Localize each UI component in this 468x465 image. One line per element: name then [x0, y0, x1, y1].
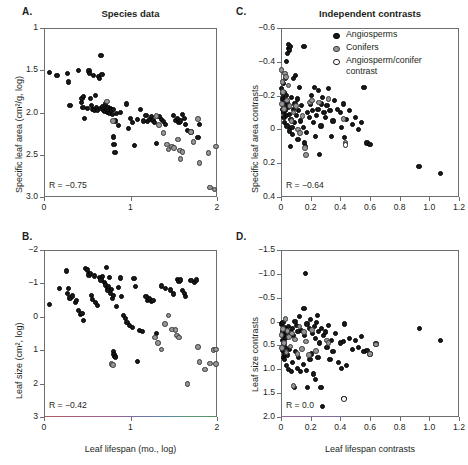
data-point-ang [111, 142, 116, 147]
data-point-ang [330, 118, 335, 123]
panel-b-letter: B. [22, 231, 32, 242]
x-tick-mark [44, 417, 45, 421]
y-tick-mark [40, 350, 44, 351]
data-point-ang [109, 287, 114, 292]
data-point-con [299, 346, 305, 352]
data-point-con [297, 130, 303, 136]
x-tick-label: 1.0 [415, 422, 443, 432]
y-tick-mark [277, 62, 281, 63]
data-point-ang [438, 171, 443, 176]
data-point-con [213, 347, 219, 353]
legend-label-mixed-contrast-line2: contrast [346, 66, 377, 76]
data-point-ang [303, 271, 308, 276]
data-point-ang [289, 125, 294, 130]
x-tick-label: 0.2 [297, 202, 325, 212]
data-point-ang [130, 120, 135, 125]
data-point-ang [194, 277, 199, 282]
data-point-con [175, 137, 181, 143]
data-point-ang [353, 338, 358, 343]
data-point-con [373, 342, 379, 348]
data-point-ang [323, 329, 328, 334]
data-point-ang [116, 123, 121, 128]
panel-d-x-axis-label: Leaf lifespan contrasts [281, 444, 459, 454]
data-point-ang [47, 302, 52, 307]
data-point-con [316, 100, 322, 106]
scan-artifact-d [282, 416, 342, 417]
y-tick-mark [40, 250, 44, 251]
data-point-ang [99, 72, 104, 77]
data-point-ang [315, 355, 320, 360]
y-tick-label: 1 [4, 22, 38, 32]
x-tick-label: 0.8 [386, 202, 414, 212]
data-point-con [306, 352, 312, 358]
data-point-ang [307, 357, 312, 362]
x-tick-label: 0.4 [326, 422, 354, 432]
data-point-con [176, 335, 182, 341]
data-point-ang [54, 73, 59, 78]
x-tick-mark [281, 417, 282, 421]
data-point-con [280, 89, 286, 95]
y-tick-label: 0 [241, 316, 275, 326]
data-point-ang [298, 118, 303, 123]
data-point-ang [341, 101, 346, 106]
data-point-ang [318, 123, 323, 128]
data-point-ang [111, 134, 116, 139]
x-tick-mark [429, 417, 430, 421]
data-point-ang [327, 108, 332, 113]
x-tick-label: 0.6 [356, 422, 384, 432]
data-point-con [283, 316, 289, 322]
y-tick-mark [40, 384, 44, 385]
y-tick-label: 3 [4, 411, 38, 421]
panel-b-plot-area [44, 250, 217, 417]
x-tick-mark [340, 197, 341, 201]
x-tick-label: 1.0 [415, 202, 443, 212]
y-tick-label: 1.0 [241, 363, 275, 373]
x-tick-label: 0 [267, 422, 295, 432]
data-point-con [156, 122, 162, 128]
data-point-ang [350, 122, 355, 127]
data-point-con [309, 327, 315, 333]
y-tick-mark [40, 283, 44, 284]
data-point-ang [361, 85, 366, 90]
y-tick-label: 3.0 [4, 191, 38, 201]
data-point-con [287, 103, 293, 109]
y-tick-label: 0 [4, 311, 38, 321]
y-tick-label: 2.5 [4, 149, 38, 159]
y-tick-mark [40, 317, 44, 318]
data-point-con [289, 331, 295, 337]
x-tick-mark [311, 197, 312, 201]
x-tick-mark [131, 417, 132, 421]
data-point-ang [182, 116, 187, 121]
y-tick-mark [277, 129, 281, 130]
data-point-con [281, 340, 287, 346]
data-point-ang [324, 345, 329, 350]
data-point-ang [135, 117, 140, 122]
y-tick-label: −0.4 [241, 56, 275, 66]
x-tick-label: 1.2 [445, 422, 468, 432]
data-point-con [300, 113, 306, 119]
x-tick-mark [370, 197, 371, 201]
y-tick-mark [277, 298, 281, 299]
data-point-ang [359, 120, 364, 125]
panel-a-y-axis-label: Specific leaf area (cm²/g, log) [14, 76, 24, 193]
data-point-ang [295, 96, 300, 101]
panel-b-x-axis-label: Leaf lifespan (mo., log) [44, 444, 217, 454]
data-point-con [161, 130, 167, 136]
y-tick-mark [277, 28, 281, 29]
x-tick-mark [44, 197, 45, 201]
data-point-con [195, 116, 201, 122]
conifer-marker-icon [333, 46, 340, 53]
panel-a-letter: A. [22, 6, 32, 17]
data-point-ang [356, 127, 361, 132]
data-point-con [295, 351, 301, 357]
legend-label-angiosperms: Angiosperms [346, 29, 397, 40]
x-tick-label: 0 [30, 422, 58, 432]
data-point-con [301, 329, 307, 335]
legend-label-mixed-contrast: Angiosperm/conifer [346, 55, 422, 66]
y-tick-mark [40, 113, 44, 114]
data-point-ang [114, 304, 119, 309]
y-tick-mark [40, 155, 44, 156]
y-tick-label: 2.0 [4, 107, 38, 117]
x-tick-mark [217, 417, 218, 421]
data-point-con [279, 332, 285, 338]
